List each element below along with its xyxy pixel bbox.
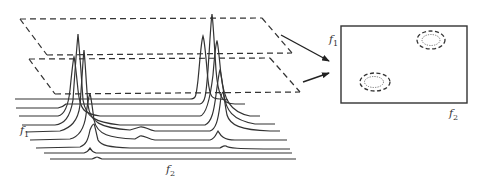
- map-axis-f2-label: f2: [449, 108, 458, 122]
- projection-arrow-lower: [303, 73, 329, 82]
- stack-axis-f2-label: f2: [166, 164, 175, 178]
- trace-9: [50, 157, 296, 159]
- contour-map-frame: [341, 26, 467, 103]
- trace-7: [36, 124, 290, 149]
- stack-axis-f1-label: f1: [20, 125, 29, 139]
- contour-peak-upper-right: [417, 31, 445, 49]
- trace-5: [26, 50, 280, 132]
- diagram-canvas: [0, 0, 477, 179]
- upper-contour-plane: [20, 18, 292, 55]
- projection-arrow-upper: [281, 35, 329, 61]
- map-axis-f1-label: f1: [329, 34, 338, 48]
- contour-peak-lower-left: [360, 73, 390, 91]
- trace-1: [15, 36, 228, 100]
- stacked-spectrum-traces: [15, 14, 296, 159]
- trace-3: [19, 41, 260, 116]
- figure: f1 f2 f1 f2: [0, 0, 477, 179]
